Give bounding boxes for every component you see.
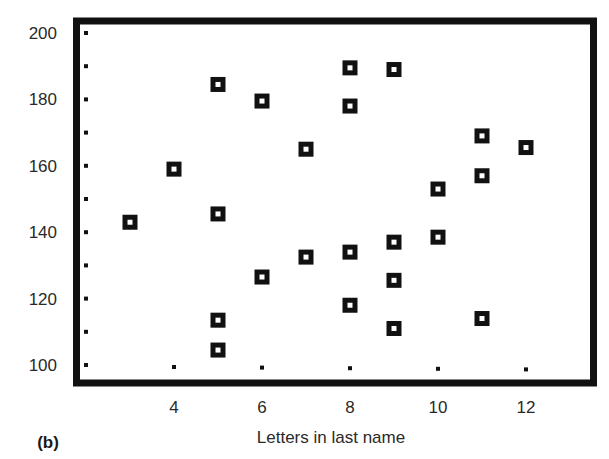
x-axis-label: Letters in last name — [257, 428, 405, 447]
data-point-marker — [519, 140, 534, 155]
x-tick-dot — [172, 365, 176, 369]
data-point-marker — [255, 270, 270, 285]
data-point-marker — [343, 99, 358, 114]
y-tick-dot — [84, 164, 88, 168]
x-tick-label: 4 — [169, 398, 178, 417]
x-tick-dot — [436, 367, 440, 371]
data-point-marker — [431, 230, 446, 245]
x-tick-dot — [348, 366, 352, 370]
data-point-marker — [123, 215, 138, 230]
x-tick-label: 6 — [257, 398, 266, 417]
data-point-marker — [387, 62, 402, 77]
x-tick-label: 12 — [517, 398, 536, 417]
y-tick-dot — [84, 131, 88, 135]
y-tick-label: 180 — [29, 90, 57, 109]
data-point-marker — [387, 273, 402, 288]
data-point-marker — [211, 313, 226, 328]
data-point-marker — [343, 60, 358, 75]
data-point-marker — [167, 162, 182, 177]
data-point-marker — [343, 245, 358, 260]
y-tick-dot — [84, 363, 88, 367]
chart-background — [0, 0, 609, 459]
data-point-marker — [475, 128, 490, 143]
y-tick-label: 120 — [29, 290, 57, 309]
x-tick-dot — [260, 366, 264, 370]
data-point-marker — [299, 142, 314, 157]
data-point-marker — [211, 206, 226, 221]
y-tick-label: 140 — [29, 223, 57, 242]
y-tick-dot — [84, 297, 88, 301]
y-tick-label: 100 — [29, 356, 57, 375]
y-tick-label: 200 — [29, 24, 57, 43]
data-point-marker — [431, 182, 446, 197]
scatter-chart: 100120140160180200 4681012 Letters in la… — [0, 0, 609, 459]
x-tick-label: 10 — [429, 398, 448, 417]
data-point-marker — [387, 321, 402, 336]
data-point-marker — [343, 298, 358, 313]
y-tick-dot — [84, 330, 88, 334]
data-point-marker — [299, 250, 314, 265]
y-tick-label: 160 — [29, 157, 57, 176]
data-point-marker — [211, 343, 226, 358]
x-tick-dot — [524, 367, 528, 371]
data-point-marker — [475, 311, 490, 326]
data-point-marker — [255, 94, 270, 109]
data-point-marker — [211, 77, 226, 92]
x-tick-label: 8 — [345, 398, 354, 417]
y-tick-dot — [84, 230, 88, 234]
y-tick-dot — [84, 31, 88, 35]
data-point-marker — [475, 168, 490, 183]
y-tick-dot — [84, 263, 88, 267]
data-point-marker — [387, 235, 402, 250]
y-tick-dot — [84, 97, 88, 101]
panel-label: (b) — [37, 433, 59, 452]
y-tick-dot — [84, 64, 88, 68]
y-tick-dot — [84, 197, 88, 201]
